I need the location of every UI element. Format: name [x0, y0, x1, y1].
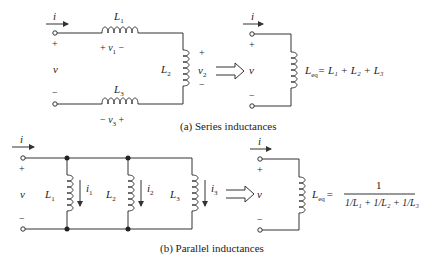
L3-label: L3: [169, 188, 180, 203]
L1-label: L1: [44, 188, 55, 203]
L3-label: L3: [113, 83, 124, 98]
minus-sign: −: [257, 214, 263, 225]
inductor-L1-icon: [102, 27, 138, 33]
current-label: i: [258, 135, 261, 147]
series-caption: (a) Series inductances: [180, 120, 277, 133]
L2-label: L2: [160, 63, 171, 78]
inductor-L1-icon: [67, 175, 73, 211]
terminal-bottom: [53, 102, 57, 106]
v1-label: + v1 −: [100, 42, 125, 56]
inductor-Leq-icon: [299, 177, 305, 213]
plus-sign: +: [19, 163, 25, 174]
equivalence-arrow-icon: [216, 63, 244, 79]
i3-label: i3: [211, 182, 218, 197]
voltage-label: v: [20, 188, 25, 200]
plus-sign: +: [249, 39, 255, 50]
parallel-caption: (b) Parallel inductances: [160, 242, 264, 255]
inductor-L3-icon: [192, 175, 198, 211]
plus-sign: +: [52, 38, 58, 49]
inductor-Leq-icon: [291, 52, 297, 88]
minus-sign: −: [52, 87, 58, 98]
equivalence-arrow-icon: [226, 186, 254, 202]
inductor-L2-icon: [128, 175, 134, 211]
current-label: i: [251, 10, 254, 22]
plus-sign: +: [257, 164, 263, 175]
inductor-L3-icon: [102, 98, 138, 104]
current-label: i: [53, 10, 56, 22]
minus-sign: −: [249, 90, 255, 101]
minus-sign: −: [199, 79, 205, 90]
parallel-equation-lhs: Leq=: [311, 188, 333, 203]
i2-label: i2: [147, 182, 154, 197]
voltage-label: v: [257, 188, 262, 200]
voltage-label: v: [53, 63, 58, 75]
equation-numerator: 1: [376, 179, 382, 191]
i1-label: i1: [86, 182, 93, 197]
terminal-top: [53, 31, 57, 35]
current-label: i: [20, 133, 23, 145]
v2-label: v2: [198, 64, 207, 79]
inductance-diagram: i + v − L1 + v1 − L2 + v2 − L3 − v3 + i …: [0, 0, 423, 262]
L1-label: L1: [113, 10, 124, 25]
L2-label: L2: [105, 188, 116, 203]
series-equation: Leq= L₁ + L₂ + L₃: [304, 64, 384, 79]
inductor-L2-icon: [183, 50, 189, 86]
minus-sign: −: [19, 213, 25, 224]
equation-denominator: 1/L₁ + 1/L₂ + 1/L₃: [345, 197, 419, 208]
voltage-label: v: [249, 64, 254, 76]
v3-label: − v3 +: [100, 114, 125, 128]
plus-sign: +: [199, 47, 205, 58]
